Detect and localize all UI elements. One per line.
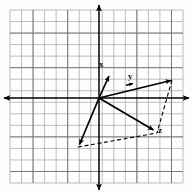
figure-canvas: x y z xyxy=(0,0,193,194)
vector-label-y: y xyxy=(128,72,133,81)
vector-diagram xyxy=(0,0,193,194)
grid-lines xyxy=(10,10,183,183)
grid-background xyxy=(10,10,183,183)
vector-label-x: x xyxy=(99,60,104,69)
vector-label-z: z xyxy=(158,126,162,135)
